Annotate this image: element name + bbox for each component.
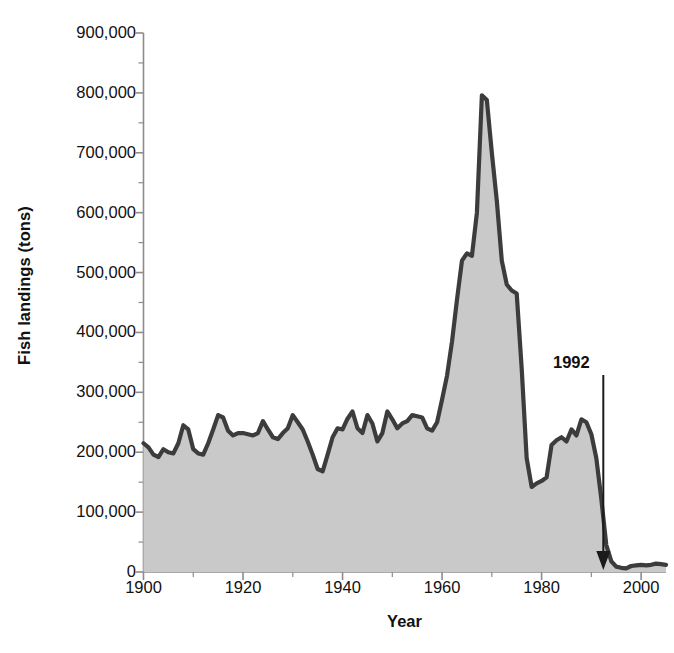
x-tick-label: 1980 <box>502 578 582 597</box>
series-area-fill <box>144 95 667 572</box>
x-tick-label: 1940 <box>303 578 383 597</box>
x-tick-label: 1960 <box>402 578 482 597</box>
x-tick-label: 1920 <box>203 578 283 597</box>
x-tick-label: 1900 <box>104 578 184 597</box>
x-tick-label: 2000 <box>601 578 674 597</box>
chart-plot-svg <box>0 0 674 653</box>
chart-figure: Fish landings (tons) Year 0100,000200,00… <box>0 0 674 653</box>
